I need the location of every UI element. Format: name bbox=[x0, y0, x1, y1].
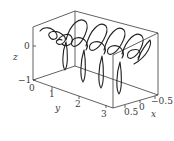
y-tick-1: 1 bbox=[49, 89, 55, 99]
parametric-curve bbox=[40, 20, 150, 94]
x-tick-0.5: 0.5 bbox=[124, 107, 139, 117]
x-axis-label: x bbox=[151, 109, 156, 119]
y-tick-2: 2 bbox=[75, 99, 81, 109]
x-tick-0: 0 bbox=[139, 102, 145, 112]
y-axis-label: y bbox=[54, 103, 61, 113]
y-tick-3: 3 bbox=[101, 109, 107, 119]
x-tick-minus-0.5: −0.5 bbox=[151, 96, 173, 106]
y-tick-0: 0 bbox=[29, 83, 35, 93]
z-tick-0: 0 bbox=[24, 41, 30, 51]
3d-curve-plot: 0 z −1 0 1 y 2 3 0.5 0 −0.5 x bbox=[0, 0, 174, 141]
z-axis-label: z bbox=[12, 52, 18, 62]
axis-labels: 0 z −1 0 1 y 2 3 0.5 0 −0.5 x bbox=[12, 41, 173, 119]
